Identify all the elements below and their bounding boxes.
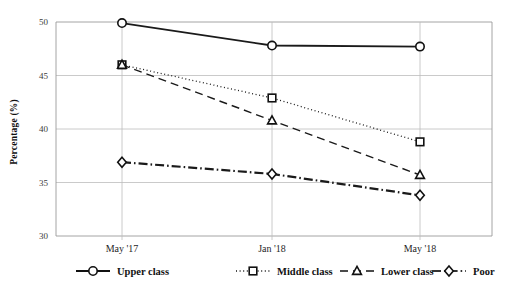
data-point-circle — [89, 267, 97, 275]
data-point-circle — [118, 19, 126, 27]
y-tick-label: 40 — [39, 124, 49, 134]
x-tick-label: May '17 — [106, 243, 139, 254]
line-chart: Percentage (%) 3035404550 May '17Jan '18… — [0, 0, 513, 289]
legend-label: Upper class — [117, 266, 169, 277]
legend-item-upper-class[interactable]: Upper class — [76, 266, 169, 277]
legend-label: Poor — [473, 266, 495, 277]
data-point-circle — [268, 41, 276, 49]
y-tick-label: 45 — [39, 71, 49, 81]
legend-item-middle-class[interactable]: Middle class — [236, 266, 333, 277]
x-tick-label: May '18 — [404, 243, 437, 254]
chart-legend: Upper classMiddle classLower classPoor — [76, 266, 495, 277]
data-point-square — [416, 138, 424, 146]
y-axis-title: Percentage (%) — [9, 99, 20, 165]
y-tick-label: 35 — [39, 178, 49, 188]
x-tick-label: Jan '18 — [258, 243, 286, 254]
data-point-circle — [416, 42, 424, 50]
data-point-square — [268, 94, 276, 102]
data-point-square — [249, 267, 257, 275]
y-tick-label: 50 — [39, 17, 49, 27]
legend-label: Middle class — [277, 266, 333, 277]
chart-canvas: Percentage (%) 3035404550 May '17Jan '18… — [0, 0, 513, 289]
legend-label: Lower class — [381, 266, 434, 277]
y-tick-label: 30 — [39, 231, 49, 241]
